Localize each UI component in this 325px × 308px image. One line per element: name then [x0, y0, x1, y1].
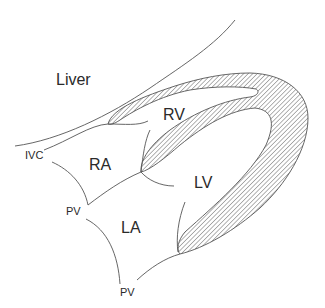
- ra-left-wall: [52, 162, 88, 205]
- la-left-wall: [86, 219, 120, 284]
- la-bottom-wall: [137, 254, 180, 280]
- label-pv-upper: PV: [66, 206, 81, 217]
- label-pv-lower: PV: [120, 287, 135, 298]
- label-ivc: IVC: [25, 150, 43, 161]
- label-lv: LV: [194, 175, 212, 191]
- label-rv: RV: [163, 107, 185, 123]
- mitral-line: [141, 172, 174, 186]
- label-la: LA: [121, 220, 141, 236]
- atrial-septum-line: [88, 172, 141, 205]
- label-liver: Liver: [56, 72, 91, 88]
- ivc-wall-line: [44, 121, 148, 150]
- heart-diagram: [0, 0, 325, 308]
- label-ra: RA: [89, 157, 111, 173]
